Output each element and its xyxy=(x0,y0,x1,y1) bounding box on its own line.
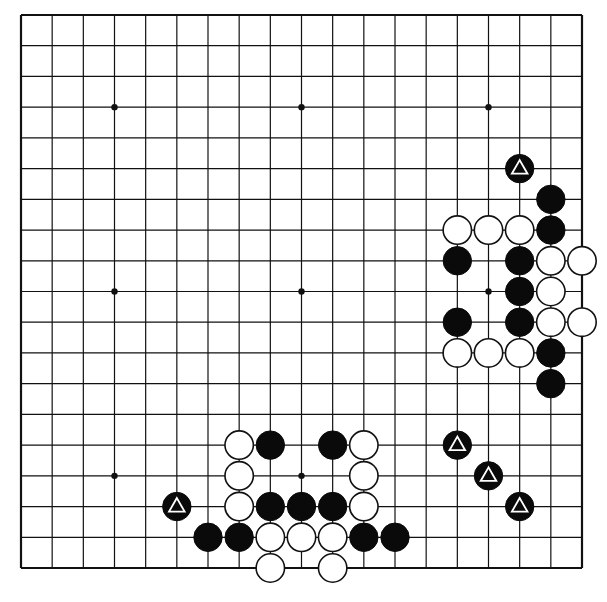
black-stone xyxy=(537,185,565,213)
black-stone xyxy=(443,308,471,336)
star-point xyxy=(111,473,117,479)
go-board xyxy=(0,0,607,602)
stones-layer xyxy=(163,154,597,582)
white-stone xyxy=(537,277,565,305)
white-stone xyxy=(225,431,253,459)
star-point xyxy=(298,288,304,294)
black-stone xyxy=(381,523,409,551)
go-board-diagram xyxy=(0,0,607,602)
black-stone xyxy=(537,216,565,244)
white-stone xyxy=(474,339,502,367)
white-stone xyxy=(318,554,346,582)
white-stone xyxy=(505,216,533,244)
white-stone xyxy=(287,523,315,551)
black-stone xyxy=(505,247,533,275)
star-point xyxy=(298,473,304,479)
black-stone xyxy=(194,523,222,551)
white-stone xyxy=(256,523,284,551)
white-stone xyxy=(225,492,253,520)
black-stone xyxy=(318,431,346,459)
white-stone xyxy=(443,216,471,244)
black-stone xyxy=(537,369,565,397)
black-stone xyxy=(225,523,253,551)
white-stone xyxy=(350,462,378,490)
star-point xyxy=(111,288,117,294)
black-stone xyxy=(537,339,565,367)
star-point xyxy=(485,104,491,110)
white-stone xyxy=(505,339,533,367)
black-stone xyxy=(505,277,533,305)
white-stone xyxy=(568,308,596,336)
white-stone xyxy=(350,431,378,459)
white-stone xyxy=(443,339,471,367)
white-stone xyxy=(318,523,346,551)
black-stone xyxy=(443,247,471,275)
white-stone xyxy=(256,554,284,582)
black-stone xyxy=(287,492,315,520)
black-stone xyxy=(350,523,378,551)
star-point xyxy=(111,104,117,110)
black-stone xyxy=(256,492,284,520)
black-stone xyxy=(318,492,346,520)
white-stone xyxy=(537,308,565,336)
star-point xyxy=(485,288,491,294)
white-stone xyxy=(568,247,596,275)
star-point xyxy=(298,104,304,110)
white-stone xyxy=(350,492,378,520)
black-stone xyxy=(256,431,284,459)
black-stone xyxy=(505,308,533,336)
white-stone xyxy=(537,247,565,275)
white-stone xyxy=(474,216,502,244)
white-stone xyxy=(225,462,253,490)
